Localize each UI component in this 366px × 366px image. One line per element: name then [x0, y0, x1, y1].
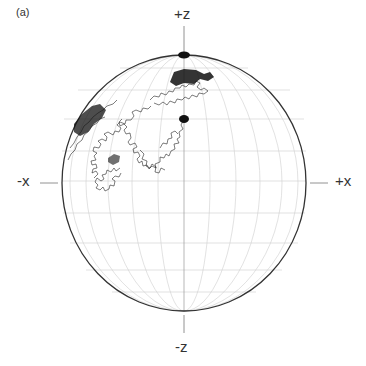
north-pole-dot: [178, 52, 190, 59]
sphere-diagram: [0, 0, 366, 366]
dense-path-clusters: [74, 69, 214, 165]
random-walk-path: [68, 81, 208, 191]
start-point-dot: [179, 115, 189, 123]
